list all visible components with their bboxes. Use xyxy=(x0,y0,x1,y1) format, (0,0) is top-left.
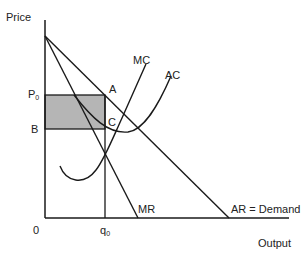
origin-label: 0 xyxy=(33,225,39,236)
mr-label: MR xyxy=(138,204,155,215)
y-axis-label: Price xyxy=(6,12,31,23)
quantity-q0-label: q0 xyxy=(100,225,110,237)
price-p0-label: P0 xyxy=(28,89,39,101)
point-c-label: C xyxy=(108,117,116,128)
diagram-canvas xyxy=(0,0,307,263)
mc-label: MC xyxy=(133,55,150,66)
ac-label: AC xyxy=(165,70,180,81)
demand-label: AR = Demand xyxy=(231,204,300,215)
x-axis-label: Output xyxy=(258,238,291,249)
point-a-label: A xyxy=(109,84,116,95)
cost-b-label: B xyxy=(31,124,38,135)
profit-area xyxy=(45,95,105,129)
